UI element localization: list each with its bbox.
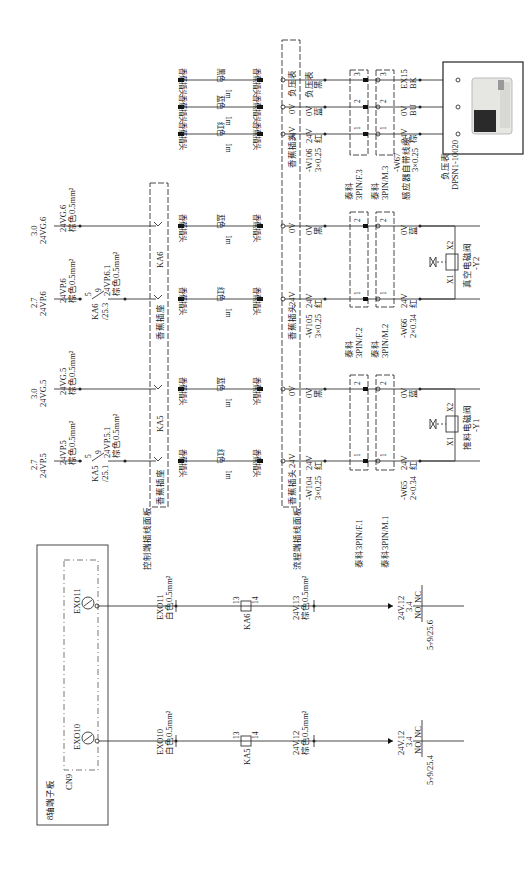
svg-text:黑: 黑 [313,389,323,398]
supply-24vp5: 2.7 24VP.5 24VP.5 棕色0.5mm² 5 9 KA5 /25.1… [29,413,156,482]
svg-text:24V: 24V [287,126,297,142]
exo10-wire-spec: 白色0.5mm² [164,710,174,755]
vacuum-gauge-sensor: 负压表 DPSN1-10020 [440,62,523,190]
svg-text:2: 2 [379,218,388,222]
socket-label-ka5: 香蕉插座 [155,469,165,505]
svg-text:14: 14 [251,596,260,604]
plug-m1-label: 泰科3PIN/M.1 [380,516,390,568]
svg-text:红: 红 [408,299,418,308]
svg-text:棕色0.5mm²: 棕色0.5mm² [111,413,121,458]
exo10-output-symbol: EXO10 [72,724,99,750]
svg-text:0V: 0V [287,222,297,233]
plug-f2-label: 3PIN/F.2 [354,327,364,358]
control-panel-box [150,183,168,507]
sensor-cable-w67: 24V 棕 0V BU EX15 BK -W67 感应器自带线缆 3×0.25 [392,69,420,200]
svg-text:24VG.6: 24VG.6 [38,217,48,244]
supply-24vp6: 2.7 24VP.6 24VP.6 棕色0.5mm² 5 9 KA6 /25.3… [29,251,156,320]
svg-text:24VG.5: 24VG.5 [38,380,48,407]
svg-text:香蕉插头: 香蕉插头 [178,377,188,406]
svg-text:/25.3: /25.3 [100,303,110,320]
group-label-ka6: KA6 [155,251,165,268]
svg-text:2: 2 [379,99,388,103]
svg-text:黑: 黑 [313,80,323,89]
svg-text:香蕉插头: 香蕉插头 [287,469,297,505]
sensor-photo-icon [472,78,512,134]
svg-text:香蕉插头: 香蕉插头 [287,304,297,340]
svg-text:1: 1 [379,291,388,295]
svg-text:1: 1 [379,453,388,457]
svg-text:1: 1 [353,126,362,130]
svg-text:1m: 1m [224,235,233,245]
svg-text:香蕉插头: 香蕉插头 [252,68,262,97]
cable-w105: 24V 红 0V 黑 -W105 3×0.25 [304,224,323,338]
svg-text:1m: 1m [224,470,233,480]
svg-text:香蕉插头: 香蕉插头 [252,95,262,124]
svg-text:泰科: 泰科 [370,340,380,358]
jumper-cables: 1m 香蕉插头 红色 香蕉插头 1m 香蕉插头 蓝色 香蕉插头 1m 香蕉插头 … [178,68,263,480]
group-label-ka5: KA5 [155,415,165,432]
socket-label-ka6: 香蕉插座 [155,304,165,340]
svg-text:3: 3 [353,72,362,76]
svg-text:3×0.25: 3×0.25 [410,148,420,172]
svg-text:香蕉插头: 香蕉插头 [178,287,188,316]
svg-text:13: 13 [232,731,241,739]
plug-m3-label: 3PIN/M.3 [380,166,390,200]
svg-text:香蕉插头: 香蕉插头 [252,122,262,151]
svg-text:蓝: 蓝 [408,389,418,398]
exo10-out-spec: 棕色0.5mm² [300,710,310,755]
exo10-contact-ref: 5-⁄9/25.4 [425,754,435,785]
svg-text:1m: 1m [224,143,233,153]
svg-text:泰科: 泰科 [344,340,354,358]
svg-text:2: 2 [353,381,362,385]
exo11-wire-spec: 白色0.5mm² [164,575,174,620]
svg-text:泰科: 泰科 [370,182,380,200]
cable-w104: 24V 红 0V 黑 -W104 3×0.25 [304,387,323,500]
svg-text:1m: 1m [224,308,233,318]
svg-text:13: 13 [232,596,241,604]
flow-panel-label: 流程端插线面板 [292,507,302,570]
svg-text:KA5: KA5 [90,465,100,482]
svg-text:BU: BU [408,104,418,116]
svg-text:BK: BK [408,76,418,89]
svg-text:3×0.25: 3×0.25 [313,148,323,172]
svg-text:香蕉插头: 香蕉插头 [178,122,188,151]
svg-text:红色: 红色 [216,449,226,464]
svg-text:香蕉插头: 香蕉插头 [178,449,188,478]
svg-text:EXO10: EXO10 [72,724,82,750]
control-panel-label: 控制端插线面板 [142,507,152,570]
exo11-out-spec: 棕色0.5mm² [300,575,310,620]
svg-text:KA6: KA6 [90,303,100,320]
svg-text:1: 1 [379,126,388,130]
svg-text:2: 2 [353,99,362,103]
svg-text:3×0.25: 3×0.25 [313,314,323,338]
sensor-cable-w65: 24V 红 0V 蓝 -W65 2×0.34 [399,387,418,500]
svg-text:蓝: 蓝 [313,107,323,116]
svg-text:EXO11: EXO11 [72,588,82,614]
svg-text:-Y1: -Y1 [471,419,481,432]
terminal-board-title: 8轴端子板 [45,780,55,820]
svg-text:负压表: 负压表 [440,153,450,180]
svg-text:1: 1 [353,453,362,457]
svg-text:1m: 1m [224,116,233,126]
svg-text:2: 2 [379,381,388,385]
svg-text:1m: 1m [224,89,233,99]
svg-text:NC: NC [413,726,423,738]
svg-text:24VP.5: 24VP.5 [38,453,48,478]
svg-text:棕色0.5mm²: 棕色0.5mm² [111,251,121,296]
svg-text:24VP.6: 24VP.6 [38,291,48,316]
svg-text:X1: X1 [446,275,455,284]
svg-text:NO: NO [413,607,423,619]
ka6-coil-label: KA6 [242,613,252,630]
svg-text:3×0.25: 3×0.25 [313,476,323,500]
svg-text:5: 5 [84,292,93,296]
svg-text:3: 3 [379,72,388,76]
svg-text:2×0.34: 2×0.34 [408,475,418,500]
svg-text:香蕉插头: 香蕉插头 [178,68,188,97]
svg-text:棕色0.5mm²: 棕色0.5mm² [67,258,77,303]
svg-text:1m: 1m [224,398,233,408]
svg-text:1: 1 [353,291,362,295]
svg-text:棕色0.5mm²: 棕色0.5mm² [67,187,77,232]
electrical-schematic: 8轴端子板 CN9 EXO11 EXO10 EXO11 白色0.5mm² 13 … [0,0,531,869]
supply-24vg5: 3.0 24VG.5 24VG.5 棕色0.5mm² [29,350,156,407]
svg-text:X2: X2 [446,241,455,250]
